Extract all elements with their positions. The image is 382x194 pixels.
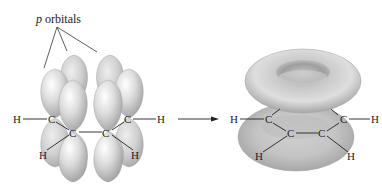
diagram-canvas: p orbitals bbox=[0, 0, 382, 194]
svg-text:p orbitals: p orbitals bbox=[35, 12, 81, 26]
reaction-arrow-icon bbox=[178, 117, 219, 122]
atom-c2: C bbox=[287, 127, 294, 139]
atom-c3: C bbox=[102, 127, 109, 139]
atom-c4: C bbox=[124, 113, 131, 125]
atom-c4: C bbox=[340, 113, 347, 125]
atom-h-left: H bbox=[230, 113, 238, 125]
label-text: orbitals bbox=[42, 12, 81, 26]
atom-h-right: H bbox=[157, 113, 165, 125]
atom-h-bottom-right: H bbox=[347, 150, 355, 162]
atom-c1: C bbox=[265, 113, 272, 125]
atom-h-bottom-left: H bbox=[39, 149, 47, 161]
atom-c3: C bbox=[318, 127, 325, 139]
atom-c2: C bbox=[69, 127, 76, 139]
atom-h-bottom-right: H bbox=[131, 149, 139, 161]
label-italic-p: p bbox=[35, 12, 42, 26]
orbital-lobe-front-top-2 bbox=[94, 80, 123, 132]
atom-h-left: H bbox=[13, 113, 21, 125]
atom-h-bottom-left: H bbox=[255, 150, 263, 162]
atom-h-right: H bbox=[371, 113, 379, 125]
atom-c1: C bbox=[48, 113, 55, 125]
